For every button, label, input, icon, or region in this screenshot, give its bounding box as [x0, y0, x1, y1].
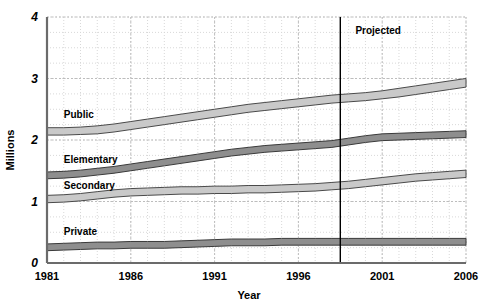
x-tick-label: 2006	[454, 270, 478, 282]
series-label-public: Public	[64, 109, 94, 120]
chart-container: 19811986199119962001200601234 PublicElem…	[0, 0, 484, 305]
x-tick-label: 1996	[286, 270, 310, 282]
area-band-private	[47, 238, 466, 250]
y-tick-label: 4	[30, 10, 38, 24]
series-label-secondary: Secondary	[64, 180, 116, 191]
line-area-chart: 19811986199119962001200601234 PublicElem…	[0, 0, 484, 305]
y-tick-label: 3	[31, 72, 38, 86]
y-tick-label: 2	[30, 133, 38, 147]
series-label-elementary: Elementary	[64, 154, 118, 165]
x-tick-label: 1986	[119, 270, 143, 282]
series-label-private: Private	[64, 226, 98, 237]
y-tick-label: 1	[31, 195, 38, 209]
area-band-public	[47, 79, 466, 136]
x-axis-title: Year	[237, 289, 261, 301]
y-axis-title: Millions	[4, 130, 16, 171]
x-tick-label: 1991	[202, 270, 226, 282]
x-tick-label: 1981	[35, 270, 59, 282]
y-tick-label: 0	[31, 256, 38, 270]
projected-annotation: Projected	[355, 25, 401, 36]
x-tick-label: 2001	[370, 270, 394, 282]
